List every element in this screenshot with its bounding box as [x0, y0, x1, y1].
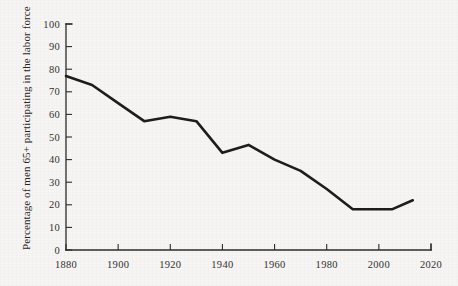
x-tick-label: 2020 — [420, 259, 442, 270]
y-tick-label: 60 — [49, 109, 60, 120]
y-tick-label: 50 — [49, 132, 60, 143]
y-tick-label: 30 — [49, 177, 60, 188]
x-tick-label: 1920 — [159, 259, 181, 270]
y-axis-label: Percentage of men 65+ participating in t… — [20, 6, 32, 250]
y-tick-label: 10 — [49, 222, 60, 233]
x-tick-label: 1980 — [316, 259, 338, 270]
x-tick-label: 1880 — [55, 259, 77, 270]
y-tick-label: 40 — [49, 154, 60, 165]
chart-page: Percentage of men 65+ participating in t… — [0, 0, 458, 286]
axes — [66, 24, 431, 250]
y-axis-label-text: Percentage of men 65+ participating in t… — [20, 6, 32, 250]
line-chart: Percentage of men 65+ participating in t… — [0, 0, 458, 286]
x-tick-label: 2000 — [368, 259, 390, 270]
y-tick-label: 20 — [49, 199, 60, 210]
x-tick-label: 1960 — [263, 259, 285, 270]
y-tick-label: 70 — [49, 86, 60, 97]
y-axis-ticks: 0102030405060708090100 — [43, 19, 72, 256]
y-tick-label: 90 — [49, 41, 60, 52]
y-tick-label: 0 — [54, 245, 60, 256]
y-tick-label: 80 — [49, 64, 60, 75]
x-tick-label: 1900 — [107, 259, 129, 270]
x-axis-ticks: 18801900192019401960198020002020 — [55, 244, 442, 270]
x-tick-label: 1940 — [211, 259, 233, 270]
y-tick-label: 100 — [43, 19, 60, 30]
data-series-line — [66, 76, 413, 209]
